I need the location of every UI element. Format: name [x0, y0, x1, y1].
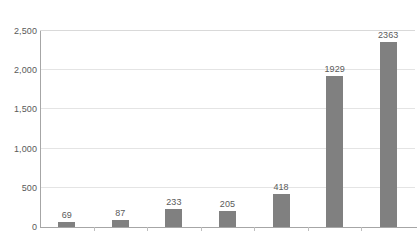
bar-group[interactable]: 2363	[380, 30, 397, 227]
bar[interactable]	[380, 42, 397, 227]
y-tick-label-2000: 2,000	[1, 66, 37, 75]
bar-value-label: 418	[273, 182, 288, 192]
bar[interactable]	[112, 220, 129, 227]
bar-value-label: 1929	[324, 64, 344, 74]
x-axis-tick	[201, 227, 202, 231]
bar-value-label: 87	[115, 208, 125, 218]
x-axis-tick	[94, 227, 95, 231]
bar-group[interactable]: 205	[219, 199, 236, 227]
bar-group[interactable]: 69	[58, 210, 75, 227]
gridline-2500	[40, 30, 415, 31]
bar-group[interactable]: 87	[112, 208, 129, 227]
bar-chart: 05001,0001,5002,0002,500 698723320541819…	[0, 0, 420, 238]
bar[interactable]	[326, 76, 343, 227]
y-tick-label-1500: 1,500	[1, 105, 37, 114]
y-tick-label-2500: 2,500	[1, 27, 37, 36]
bar-value-label: 205	[220, 199, 235, 209]
bar-value-label: 233	[166, 197, 181, 207]
y-tick-label-500: 500	[1, 184, 37, 193]
y-axis-tick-labels: 05001,0001,5002,0002,500	[0, 0, 37, 238]
y-axis-line	[40, 31, 41, 228]
gridline-1500	[40, 108, 415, 109]
gridline-500	[40, 187, 415, 188]
x-axis-tick	[147, 227, 148, 231]
bar-group[interactable]: 1929	[326, 64, 343, 227]
gridline-2000	[40, 69, 415, 70]
bar-value-label: 2363	[378, 30, 398, 40]
x-axis-tick	[308, 227, 309, 231]
x-axis-tick	[361, 227, 362, 231]
bar[interactable]	[273, 194, 290, 227]
gridline-1000	[40, 148, 415, 149]
x-axis-tick	[254, 227, 255, 231]
bar-group[interactable]: 418	[273, 182, 290, 227]
bar-group[interactable]: 233	[165, 197, 182, 227]
bar-value-label: 69	[62, 210, 72, 220]
bar[interactable]	[219, 211, 236, 227]
y-tick-label-0: 0	[1, 223, 37, 232]
y-tick-label-1000: 1,000	[1, 145, 37, 154]
plot-area: 698723320541819292363	[40, 31, 415, 227]
bar[interactable]	[165, 209, 182, 227]
